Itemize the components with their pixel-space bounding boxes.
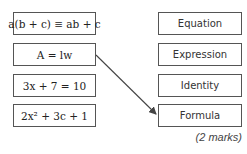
marks-label: (2 marks) [196, 131, 242, 143]
statement-box-quadratic-expression[interactable]: 2x² + 3c + 1 [13, 104, 96, 127]
type-label: Identity [181, 80, 219, 91]
statement-box-area-formula[interactable]: A = lw [13, 43, 96, 66]
type-label: Equation [178, 18, 222, 29]
type-box-identity[interactable]: Identity [158, 74, 242, 97]
statement-box-linear-equation[interactable]: 3x + 7 = 10 [13, 74, 96, 97]
type-box-expression[interactable]: Expression [158, 43, 242, 66]
type-box-equation[interactable]: Equation [158, 12, 242, 35]
type-label: Expression [173, 49, 227, 60]
type-label: Formula [180, 110, 220, 121]
type-box-formula[interactable]: Formula [158, 104, 242, 127]
statement-text: 3x + 7 = 10 [23, 80, 87, 92]
statement-text: A = lw [37, 49, 72, 61]
statement-text: 2x² + 3c + 1 [21, 110, 88, 122]
statement-box-identity-expr[interactable]: a(b + c) ≡ ab + c [13, 12, 96, 35]
statement-text: a(b + c) ≡ ab + c [8, 18, 100, 30]
